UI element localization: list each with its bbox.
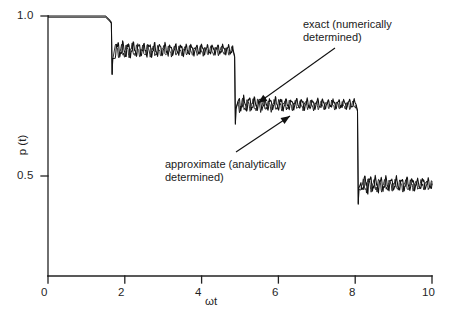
x-tick-label-8: 8 [349, 286, 356, 298]
x-tick-label-10: 10 [422, 286, 435, 298]
x-axis-title: ωt [205, 295, 217, 307]
annotation-approximate-label: approximate (analytically determined) [165, 158, 286, 184]
x-tick-label-0: 0 [41, 286, 48, 298]
x-tick-label-4: 4 [195, 286, 202, 298]
figure-panel: 1.0 0.5 0 2 4 6 8 10 p (t) ωt exact (num… [0, 0, 451, 320]
y-tick-label-1.0: 1.0 [17, 9, 34, 21]
annotation-exact-label: exact (numerically determined) [303, 18, 392, 44]
x-tick-label-6: 6 [272, 286, 279, 298]
y-axis-title: p (t) [16, 115, 28, 175]
x-tick-label-2: 2 [118, 286, 125, 298]
